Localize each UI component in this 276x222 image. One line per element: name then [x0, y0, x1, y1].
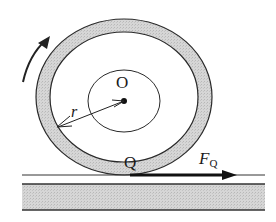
label-center-O: O	[116, 74, 128, 91]
physics-diagram: O r Q FQ	[0, 0, 276, 222]
label-force-FQ: FQ	[199, 150, 217, 169]
label-radius-r: r	[71, 104, 77, 120]
ground-slab	[22, 184, 265, 210]
outer-ring	[36, 19, 212, 175]
diagram-svg	[0, 0, 276, 222]
label-contact-Q: Q	[124, 154, 136, 171]
force-subscript: Q	[209, 157, 217, 169]
force-symbol: F	[199, 149, 209, 168]
